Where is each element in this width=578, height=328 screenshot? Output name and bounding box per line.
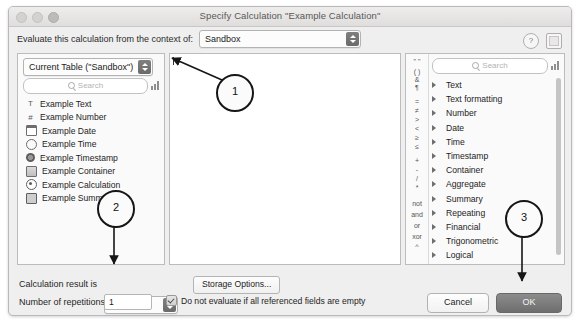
- chevron-right-icon[interactable]: [432, 167, 440, 173]
- chevron-right-icon[interactable]: [432, 238, 440, 244]
- operator-button[interactable]: ≠: [406, 107, 428, 114]
- search-icon: [472, 62, 479, 69]
- operator-button[interactable]: " ": [406, 58, 428, 65]
- field-list-item[interactable]: Example Timestamp: [18, 151, 164, 165]
- operator-button[interactable]: or: [406, 222, 428, 229]
- field-list-item-label: Example Timestamp: [40, 153, 118, 163]
- function-category-label: Number: [446, 108, 477, 118]
- formula-pane[interactable]: [169, 53, 401, 265]
- operator-button[interactable]: /: [406, 175, 428, 182]
- function-category-item[interactable]: Aggregate: [432, 177, 552, 191]
- fields-search-row: Search: [23, 78, 159, 93]
- function-category-item[interactable]: Trigonometric: [432, 234, 552, 248]
- context-popup[interactable]: Sandbox: [199, 30, 361, 48]
- repetitions-label: Number of repetitions:: [19, 297, 108, 307]
- function-category-label: Timestamp: [446, 151, 488, 161]
- chevron-right-icon[interactable]: [432, 181, 440, 187]
- chevron-right-icon[interactable]: [432, 196, 440, 202]
- chevron-right-icon[interactable]: [432, 224, 440, 230]
- annotation-callout-2: 2: [97, 190, 135, 228]
- function-category-item[interactable]: Date: [432, 121, 552, 135]
- field-list-item-label: Example Text: [40, 99, 91, 109]
- operator-button[interactable]: and: [406, 211, 428, 218]
- functions-scrollbar[interactable]: [556, 78, 561, 260]
- fields-list[interactable]: TExample Text#Example NumberExample Date…: [18, 97, 164, 264]
- chevron-right-icon[interactable]: [432, 139, 440, 145]
- chevron-right-icon[interactable]: [432, 110, 440, 116]
- function-category-item[interactable]: Timestamp: [432, 149, 552, 163]
- field-list-item[interactable]: Example Time: [18, 138, 164, 152]
- chevron-right-icon[interactable]: [432, 82, 440, 88]
- function-category-label: Summary: [446, 194, 483, 204]
- operator-button[interactable]: ( ): [406, 68, 428, 75]
- field-list-item-label: Example Time: [42, 139, 96, 149]
- fields-search-placeholder: Search: [78, 81, 103, 90]
- operator-button[interactable]: <: [406, 125, 428, 132]
- operator-button[interactable]: ^: [406, 243, 428, 250]
- function-category-item[interactable]: Number: [432, 106, 552, 120]
- scrollbar-thumb[interactable]: [556, 78, 561, 255]
- number-icon: #: [26, 113, 35, 122]
- function-category-item[interactable]: Container: [432, 163, 552, 177]
- operator-column[interactable]: " "( )&¶=≠><≥≤+-/*notandorxor^: [406, 54, 429, 264]
- function-category-label: Text formatting: [446, 94, 502, 104]
- fields-pane: Current Table ("Sandbox") Search TExampl…: [17, 53, 165, 265]
- do-not-evaluate-checkbox-row[interactable]: Do not evaluate if all referenced fields…: [166, 295, 365, 306]
- ok-button[interactable]: OK: [496, 293, 562, 313]
- field-list-item[interactable]: #Example Number: [18, 111, 164, 125]
- window-titlebar: Specify Calculation "Example Calculation…: [9, 7, 571, 27]
- operator-button[interactable]: >: [406, 116, 428, 123]
- do-not-evaluate-label: Do not evaluate if all referenced fields…: [181, 296, 365, 306]
- operator-button[interactable]: not: [406, 200, 428, 207]
- operator-button[interactable]: xor: [406, 233, 428, 240]
- table-popup[interactable]: Current Table ("Sandbox"): [23, 58, 153, 76]
- summary-icon: [26, 193, 37, 204]
- container-icon: [26, 166, 37, 177]
- bar-chart-icon[interactable]: [551, 61, 559, 70]
- field-list-item[interactable]: Example Calculation: [18, 178, 164, 192]
- context-row: Evaluate this calculation from the conte…: [9, 26, 571, 51]
- functions-search-placeholder: Search: [482, 61, 507, 70]
- context-label: Evaluate this calculation from the conte…: [17, 34, 193, 44]
- operator-button[interactable]: ≤: [406, 143, 428, 150]
- field-list-item[interactable]: TExample Text: [18, 97, 164, 111]
- function-category-item[interactable]: Text: [432, 78, 552, 92]
- operator-button[interactable]: ≥: [406, 134, 428, 141]
- function-category-item[interactable]: Text formatting: [432, 92, 552, 106]
- functions-search-input[interactable]: Search: [432, 58, 548, 74]
- field-list-item[interactable]: Example Container: [18, 165, 164, 179]
- chevron-right-icon[interactable]: [432, 153, 440, 159]
- repetitions-input[interactable]: 1: [104, 294, 152, 310]
- operator-button[interactable]: -: [406, 166, 428, 173]
- storage-options-button[interactable]: Storage Options...: [193, 276, 280, 294]
- operator-button[interactable]: *: [406, 184, 428, 191]
- do-not-evaluate-checkbox[interactable]: [166, 295, 177, 306]
- chevron-updown-icon: [346, 32, 359, 46]
- chevron-right-icon[interactable]: [432, 252, 440, 258]
- field-list-item[interactable]: Example Date: [18, 124, 164, 138]
- chevron-right-icon[interactable]: [432, 210, 440, 216]
- field-list-item[interactable]: Example Summary: [18, 192, 164, 206]
- chevron-right-icon[interactable]: [432, 96, 440, 102]
- field-list-item-label: Example Number: [40, 112, 106, 122]
- operator-button[interactable]: +: [406, 157, 428, 164]
- annotation-callout-1: 1: [216, 74, 254, 112]
- panel-toggle-icon[interactable]: [546, 33, 562, 49]
- timestamp-icon: [26, 153, 35, 162]
- operator-button[interactable]: &: [406, 76, 428, 83]
- help-icon[interactable]: ?: [523, 33, 539, 49]
- chevron-right-icon[interactable]: [432, 125, 440, 131]
- operator-button[interactable]: =: [406, 98, 428, 105]
- functions-search-row: Search: [432, 58, 559, 73]
- screenshot-root: Specify Calculation "Example Calculation…: [0, 0, 578, 328]
- bar-chart-icon[interactable]: [151, 81, 159, 90]
- function-category-label: Aggregate: [446, 179, 486, 189]
- fields-search-input[interactable]: Search: [23, 78, 148, 94]
- function-category-label: Text: [446, 80, 462, 90]
- function-category-item[interactable]: Time: [432, 135, 552, 149]
- operator-button[interactable]: ¶: [406, 84, 428, 91]
- chevron-updown-icon: [138, 60, 151, 74]
- function-category-item[interactable]: Logical: [432, 248, 552, 262]
- function-category-label: Logical: [446, 250, 473, 260]
- cancel-button[interactable]: Cancel: [427, 293, 489, 313]
